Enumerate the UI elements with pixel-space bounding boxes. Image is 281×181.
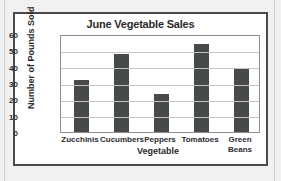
y-axis-tick-label: 30 [0, 80, 18, 89]
x-axis-category-label: Tomatoes [180, 135, 220, 145]
bar [74, 80, 89, 132]
gridline [61, 85, 259, 86]
y-axis-tick-label: 60 [0, 31, 18, 40]
x-axis-title: Vegetable [60, 146, 256, 156]
x-axis-category-label: Cucumbers [100, 135, 140, 145]
y-axis-tick-label: 0 [0, 129, 18, 138]
x-axis-category-label: Peppers [140, 135, 180, 145]
gridline [61, 52, 259, 53]
gridline [61, 68, 259, 69]
y-axis-tick-label: 20 [0, 96, 18, 105]
y-axis-tick-label: 50 [0, 47, 18, 56]
gridline [61, 101, 259, 102]
y-axis-tick-label: 40 [0, 64, 18, 73]
chart-panel: June Vegetable Sales Number of Pounds So… [13, 12, 268, 166]
gridline [61, 117, 259, 118]
chart-title: June Vegetable Sales [15, 18, 266, 30]
plot-area [60, 35, 260, 133]
y-axis-tick-label: 10 [0, 113, 18, 122]
page-rule-left [4, 0, 5, 181]
x-axis-category-label: Zucchinis [60, 135, 100, 145]
bar [194, 44, 209, 132]
page-rule-right [274, 0, 275, 181]
bar [114, 54, 129, 132]
y-axis-title: Number of Pounds Sold [26, 13, 36, 109]
